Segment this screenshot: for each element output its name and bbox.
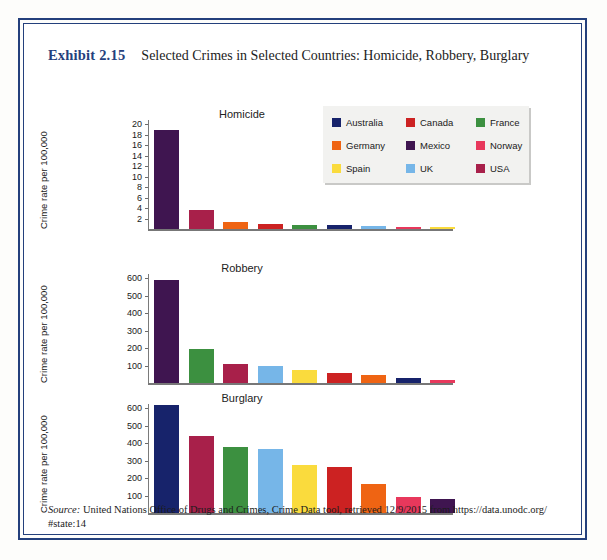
chart-robbery: RobberyCrime rate per 100,00010020030040… — [24, 262, 544, 395]
y-tick-label: 8 — [137, 182, 142, 192]
y-tick-label: 100 — [127, 361, 142, 371]
bar-france — [189, 349, 214, 383]
plot-area — [148, 408, 453, 513]
bar-spain — [292, 370, 317, 383]
y-tick-label: 4 — [137, 203, 142, 213]
bar-australia — [396, 378, 421, 383]
y-tick-label: 300 — [127, 456, 142, 466]
y-tick-label: 600 — [127, 403, 142, 413]
y-tick-label: 2 — [137, 214, 142, 224]
source-line-2: #state:14 — [48, 518, 86, 529]
exhibit-header: Exhibit 2.15Selected Crimes in Selected … — [48, 46, 529, 64]
y-tick-label: 300 — [127, 326, 142, 336]
chart-homicide: HomicideCrime rate per 100,0002468101214… — [24, 108, 544, 241]
bar-usa — [189, 210, 214, 229]
y-tick-label: 600 — [127, 273, 142, 283]
bar-germany — [223, 222, 248, 229]
y-axis-ticks: 2468101214161820 — [120, 108, 146, 233]
y-tick-label: 12 — [132, 161, 142, 171]
source-prefix: Source: — [48, 504, 80, 515]
y-tick-label: 14 — [132, 151, 142, 161]
chart-title: Burglary — [182, 392, 302, 404]
y-tick-label: 400 — [127, 308, 142, 318]
bar-canada — [327, 373, 352, 383]
bar-usa — [189, 436, 214, 513]
y-tick-label: 18 — [132, 130, 142, 140]
y-axis-ticks: 100200300400500600 — [120, 262, 146, 387]
y-tick-label: 16 — [132, 140, 142, 150]
x-axis-line — [148, 383, 453, 385]
bar-france — [292, 225, 317, 229]
chart-title: Robbery — [182, 262, 302, 274]
y-axis-label: Crime rate per 100,000 — [38, 131, 49, 229]
y-tick-label: 500 — [127, 421, 142, 431]
plot-area — [148, 124, 453, 229]
plot-area — [148, 278, 453, 383]
x-axis-line — [148, 229, 453, 231]
exhibit-label: Exhibit 2.15 — [48, 47, 125, 63]
exhibit-page: Exhibit 2.15Selected Crimes in Selected … — [0, 0, 607, 560]
y-tick-label: 6 — [137, 193, 142, 203]
source-note: Source: United Nations Office of Drugs a… — [48, 503, 568, 531]
y-tick-label: 200 — [127, 343, 142, 353]
bar-germany — [361, 375, 386, 383]
exhibit-content: Exhibit 2.15Selected Crimes in Selected … — [24, 24, 581, 534]
bar-mexico — [154, 130, 179, 229]
y-tick-label: 400 — [127, 438, 142, 448]
bar-australia — [327, 225, 352, 229]
y-tick-label: 10 — [132, 172, 142, 182]
bar-usa — [223, 364, 248, 383]
bar-mexico — [154, 280, 179, 383]
y-axis-line — [148, 404, 149, 513]
chart-title: Homicide — [182, 108, 302, 120]
y-axis-label: Crime rate per 100,000 — [38, 285, 49, 383]
y-axis-line — [148, 120, 149, 229]
y-axis-line — [148, 274, 149, 383]
bar-spain — [430, 227, 455, 229]
bar-australia — [154, 405, 179, 513]
y-tick-label: 200 — [127, 473, 142, 483]
bar-norway — [396, 227, 421, 229]
y-tick-label: 500 — [127, 291, 142, 301]
bar-canada — [258, 224, 283, 229]
bar-norway — [430, 380, 455, 384]
y-axis-label: Crime rate per 100,000 — [38, 415, 49, 513]
y-axis-ticks: 100200300400500600 — [120, 392, 146, 517]
bar-uk — [361, 226, 386, 229]
y-tick-label: 100 — [127, 491, 142, 501]
page-title: Selected Crimes in Selected Countries: H… — [141, 48, 529, 63]
y-tick-label: 20 — [132, 119, 142, 129]
bar-uk — [258, 366, 283, 383]
source-text: United Nations Office of Drugs and Crime… — [80, 504, 547, 515]
